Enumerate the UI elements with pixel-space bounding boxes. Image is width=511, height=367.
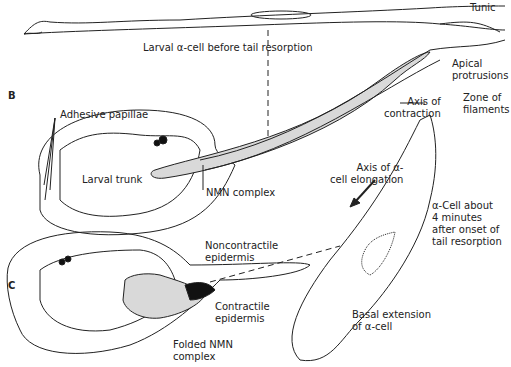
label-larval-trunk: Larval trunk: [82, 174, 142, 186]
label-larval-alpha-cell: Larval α-cell before tail resorption: [143, 42, 313, 54]
tail-outline: [24, 6, 505, 34]
label-nmn-complex: NMN complex: [206, 187, 275, 199]
panel-label-b: B: [8, 90, 16, 101]
panel-label-c: C: [8, 280, 15, 291]
label-zone-of-filaments: Zone of filaments: [463, 92, 510, 116]
contractile-epidermis-c: [185, 283, 215, 300]
label-folded-nmn-complex: Folded NMN complex: [173, 339, 233, 363]
label-axis-of-contraction: Axis of contraction: [384, 96, 441, 120]
label-basal-extension: Basal extension of α-cell: [352, 309, 431, 333]
label-apical-protrusions: Apical protrusions: [452, 58, 508, 82]
label-tunic: Tunic: [470, 2, 496, 14]
label-contractile-epidermis: Contractile epidermis: [215, 301, 270, 325]
diagram-canvas: B C Tunic Larval α-cell before tail reso…: [0, 0, 511, 367]
label-axis-of-elongation: Axis of α- cell elongation: [330, 162, 403, 186]
label-alpha-cell-4min: α-Cell about 4 minutes after onset of ta…: [432, 200, 502, 248]
label-adhesive-papillae: Adhesive papillae: [60, 109, 148, 121]
trunk-b-outer: [39, 110, 235, 235]
label-noncontractile-epidermis: Noncontractile epidermis: [205, 240, 278, 264]
